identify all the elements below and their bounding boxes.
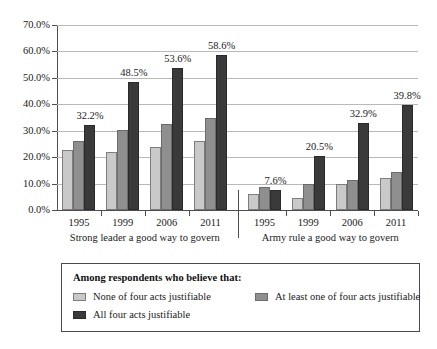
bar (62, 150, 73, 210)
bar (303, 184, 314, 210)
bar (128, 82, 139, 210)
bar (358, 123, 369, 210)
bar (117, 130, 128, 210)
y-axis-tick-label: 50.0% (2, 73, 50, 83)
gridline (57, 51, 418, 52)
bar-data-label: 32.2% (76, 110, 103, 121)
bar-data-label: 39.8% (394, 90, 421, 101)
x-axis-category-label: 2006 (156, 217, 177, 229)
group-caption: Strong leader a good way to govern (70, 232, 220, 244)
y-axis-tick-labels: 0.0%10.0%20.0%30.0%40.0%50.0%60.0%70.0% (0, 0, 50, 250)
x-axis-category-label: 2011 (200, 217, 221, 229)
bar (270, 190, 281, 210)
legend-swatch-icon (73, 311, 86, 319)
bar (336, 184, 347, 210)
bar-chart-figure: 0.0%10.0%20.0%30.0%40.0%50.0%60.0%70.0% … (0, 0, 437, 349)
x-axis-category-label: 1995 (254, 217, 275, 229)
y-axis-tick-label: 60.0% (2, 46, 50, 56)
y-axis-tick-label: 70.0% (2, 20, 50, 30)
y-axis-tick-label: 40.0% (2, 99, 50, 109)
x-axis-category-label: 1995 (68, 217, 89, 229)
legend-label: At least one of four acts justifiable (275, 291, 420, 303)
legend-swatch-icon (255, 293, 268, 301)
y-axis-tick-mark (52, 157, 57, 158)
bar (402, 105, 413, 210)
x-axis-tick-mark (145, 211, 146, 216)
x-axis-end-tick (418, 211, 419, 216)
y-axis-tick-mark (52, 78, 57, 79)
group-caption: Army rule a good way to govern (262, 232, 399, 244)
bar (259, 187, 270, 210)
plot-area: 32.2%48.5%53.6%58.6%7.6%20.5%32.9%39.8% (57, 25, 418, 210)
x-axis-category-label: 1999 (298, 217, 319, 229)
legend-entry: None of four acts justifiable (73, 291, 211, 303)
x-axis-category-label: 2006 (342, 217, 363, 229)
bar (205, 118, 216, 210)
bar (347, 180, 358, 210)
y-axis-tick-mark (52, 131, 57, 132)
bar (194, 141, 205, 210)
legend-entry: At least one of four acts justifiable (255, 291, 420, 303)
x-axis-category-label: 1999 (112, 217, 133, 229)
y-axis-tick-mark (52, 210, 57, 211)
x-axis-tick-mark (189, 211, 190, 216)
legend-label: All four acts justifiable (93, 309, 190, 321)
group-divider (238, 190, 239, 238)
y-axis-tick-mark (52, 104, 57, 105)
bar (391, 172, 402, 210)
legend-label: None of four acts justifiable (93, 291, 211, 303)
bar-data-label: 32.9% (350, 108, 377, 119)
bar-data-label: 58.6% (208, 40, 235, 51)
legend-box: Among respondents who believe that: None… (61, 263, 420, 332)
bar-data-label: 53.6% (164, 53, 191, 64)
bar (150, 147, 161, 210)
bar (248, 194, 259, 210)
bar (216, 55, 227, 210)
gridline (57, 78, 418, 79)
bar (380, 178, 391, 210)
legend-swatch-icon (73, 293, 86, 301)
bar (172, 68, 183, 210)
legend-title: Among respondents who believe that: (73, 272, 241, 284)
bar-data-label: 48.5% (120, 67, 147, 78)
bar (314, 156, 325, 210)
bar (73, 141, 84, 210)
bar-data-label: 7.6% (265, 175, 287, 186)
x-axis-tick-mark (330, 211, 331, 216)
gridline (57, 25, 418, 26)
x-axis-tick-mark (374, 211, 375, 216)
y-axis-tick-label: 0.0% (2, 205, 50, 215)
x-axis-tick-mark (286, 211, 287, 216)
y-axis-tick-mark (52, 184, 57, 185)
x-axis-tick-mark (101, 211, 102, 216)
y-axis-tick-mark (52, 25, 57, 26)
y-axis-tick-mark (52, 51, 57, 52)
y-axis-tick-label: 10.0% (2, 179, 50, 189)
gridline (57, 104, 418, 105)
x-axis-category-label: 2011 (386, 217, 407, 229)
bar (161, 124, 172, 210)
y-axis-tick-label: 20.0% (2, 152, 50, 162)
bar (292, 198, 303, 210)
bar-data-label: 20.5% (306, 141, 333, 152)
bar (106, 152, 117, 210)
plot-wrapper: 0.0%10.0%20.0%30.0%40.0%50.0%60.0%70.0% … (0, 0, 437, 250)
bar (84, 125, 95, 210)
y-axis-tick-label: 30.0% (2, 126, 50, 136)
legend-entry: All four acts justifiable (73, 309, 190, 321)
